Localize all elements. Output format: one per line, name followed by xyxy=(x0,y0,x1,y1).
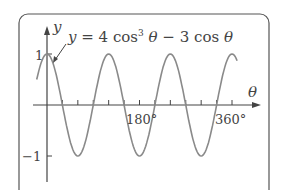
x-axis-arrow-icon xyxy=(252,102,261,108)
y-tick-label-minus1: −1 xyxy=(22,149,41,164)
x-axis-label: θ xyxy=(248,83,257,101)
y-axis-arrow-icon xyxy=(44,26,50,35)
y-tick-label-1: 1 xyxy=(35,48,43,63)
equation: y = 4 cos3 θ − 3 cos θ xyxy=(67,28,233,46)
chart: y θ 1 −1 180° 360° y = 4 cos3 θ − 3 cos … xyxy=(0,0,285,190)
x-tick-label-180: 180° xyxy=(126,112,157,127)
y-axis-label: y xyxy=(52,18,62,36)
x-tick-label-360: 360° xyxy=(215,112,246,127)
pointer-line xyxy=(55,44,66,60)
x-ticks xyxy=(62,100,232,105)
